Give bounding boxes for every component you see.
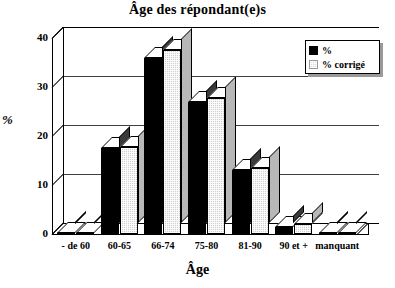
y-tick-label: 30 [22,80,48,92]
axis-line [368,223,369,235]
bar-front-face [232,170,250,234]
axis-depth-line [52,27,64,39]
bar-front-face [188,102,206,234]
bar-side-face [269,146,280,223]
bar---de-60-series-2 [76,233,94,235]
bar-manquant-series-1 [319,233,337,235]
bar-75-80-series-2 [207,98,225,234]
legend-swatch-icon [309,46,318,55]
legend-swatch-icon [309,60,318,69]
bar-60-65-series-1 [101,148,119,234]
gridline [63,76,379,77]
bar-75-80-series-1 [188,102,206,234]
bar---de-60-series-1 [57,233,75,235]
bar-front-face [294,224,312,234]
axis-line [63,27,379,28]
bar-front-face [120,147,138,234]
bar-front-face [163,50,181,234]
bar-66-74-series-2 [163,50,181,234]
bar-81-90-series-1 [232,170,250,234]
axis-line [52,234,368,235]
legend: % % corrigé [305,40,380,74]
legend-item-0: % [309,43,376,57]
legend-label: % [322,45,332,56]
y-tick-label: 20 [22,129,48,141]
bar-front-face [207,98,225,234]
bar-front-face [275,227,293,234]
bar-side-face [312,202,323,223]
bar-front-face [251,168,269,234]
bar-chart: Âge des répondant(e)s % Âge 010203040 - … [0,0,395,288]
bar-60-65-series-2 [120,147,138,234]
axis-line [63,27,64,224]
gridline-connector [52,76,64,88]
legend-label: % corrigé [322,59,365,70]
y-tick-label: 10 [22,178,48,190]
x-tick-label: manquant [309,240,365,251]
axis-line [52,38,53,235]
bar-66-74-series-1 [144,58,162,234]
bar-81-90-series-2 [251,168,269,234]
bar-front-face [144,58,162,234]
bar-90-et-+-series-2 [294,224,312,234]
gridline-connector [52,125,64,137]
bar-front-face [101,148,119,234]
gridline-connector [52,174,64,186]
y-tick-label: 40 [22,31,48,43]
bar-90-et-+-series-1 [275,227,293,234]
bar-manquant-series-2 [338,233,356,235]
legend-item-1: % corrigé [309,57,376,71]
y-tick-label: 0 [22,227,48,239]
